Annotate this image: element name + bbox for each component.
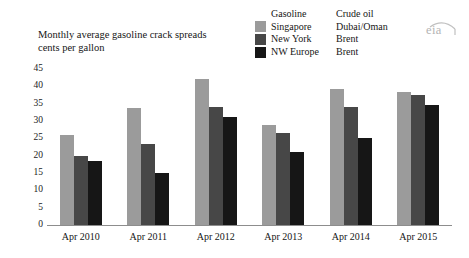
legend-color-swatch-icon [255, 21, 266, 32]
legend-color-swatch-icon [255, 47, 266, 58]
bar[interactable] [74, 156, 88, 225]
y-axis-tick-label: 40 [23, 82, 43, 92]
y-axis-tick-label: 25 [23, 134, 43, 144]
eia-logo-text: eia [426, 23, 442, 38]
legend-header-crude: Crude oil [336, 8, 415, 21]
y-axis-tick-label: 30 [23, 116, 43, 126]
legend-label-crude: Brent [336, 46, 415, 59]
chart-subtitle-line2: cents per gallon [38, 41, 278, 54]
y-axis-tick-label: 35 [23, 99, 43, 109]
legend-label-gasoline: NW Europe [271, 46, 336, 59]
legend-header-row: Gasoline Crude oil [271, 8, 415, 21]
y-axis-tick-label: 45 [23, 64, 43, 74]
bar-group [262, 69, 304, 225]
y-axis-tick-label: 20 [23, 151, 43, 161]
legend-label-gasoline: Singapore [271, 21, 336, 34]
bar[interactable] [411, 95, 425, 225]
bar-group [60, 69, 102, 225]
chart-title: Monthly average gasoline crack spreads c… [38, 28, 278, 54]
bar-group [127, 69, 169, 225]
bar[interactable] [88, 161, 102, 225]
legend-item[interactable]: SingaporeDubai/Oman [255, 21, 415, 34]
chart-figure: Monthly average gasoline crack spreads c… [0, 0, 469, 258]
y-axis-tick-label: 5 [23, 203, 43, 213]
legend-header-gasoline: Gasoline [271, 8, 336, 21]
legend-item[interactable]: NW EuropeBrent [255, 46, 415, 59]
y-axis-tick-label: 15 [23, 168, 43, 178]
plot-area [47, 69, 452, 225]
bar[interactable] [262, 125, 276, 225]
x-axis-labels: Apr 2010Apr 2011Apr 2012Apr 2013Apr 2014… [47, 230, 452, 248]
bar[interactable] [195, 79, 209, 225]
bar[interactable] [223, 117, 237, 226]
bar[interactable] [141, 144, 155, 225]
bar[interactable] [290, 152, 304, 225]
y-axis-tick-label: 10 [23, 186, 43, 196]
legend-label-crude: Dubai/Oman [336, 21, 415, 34]
bar[interactable] [127, 108, 141, 225]
eia-logo: eia [424, 20, 462, 42]
y-axis-tick-label: 0 [23, 220, 43, 230]
legend-color-swatch-icon [255, 34, 266, 45]
bar[interactable] [358, 138, 372, 225]
x-axis-tick-label: Apr 2015 [378, 230, 458, 244]
x-axis-line [47, 225, 452, 226]
bar[interactable] [397, 92, 411, 225]
legend-item[interactable]: New YorkBrent [255, 33, 415, 46]
legend-rows: SingaporeDubai/OmanNew YorkBrentNW Europ… [255, 21, 415, 59]
bar-group [330, 69, 372, 225]
bar[interactable] [155, 173, 169, 225]
bar[interactable] [330, 89, 344, 225]
bar-group [397, 69, 439, 225]
y-axis-labels: 051015202530354045 [21, 69, 43, 225]
bar[interactable] [276, 133, 290, 225]
bar-group [195, 69, 237, 225]
bar[interactable] [425, 105, 439, 225]
bar[interactable] [209, 107, 223, 225]
bar[interactable] [344, 107, 358, 225]
legend-label-gasoline: New York [271, 33, 336, 46]
chart-title-line1: Monthly average gasoline crack spreads [38, 28, 278, 41]
bar[interactable] [60, 135, 74, 225]
chart-legend: Gasoline Crude oil SingaporeDubai/OmanNe… [255, 8, 415, 58]
legend-label-crude: Brent [336, 33, 415, 46]
